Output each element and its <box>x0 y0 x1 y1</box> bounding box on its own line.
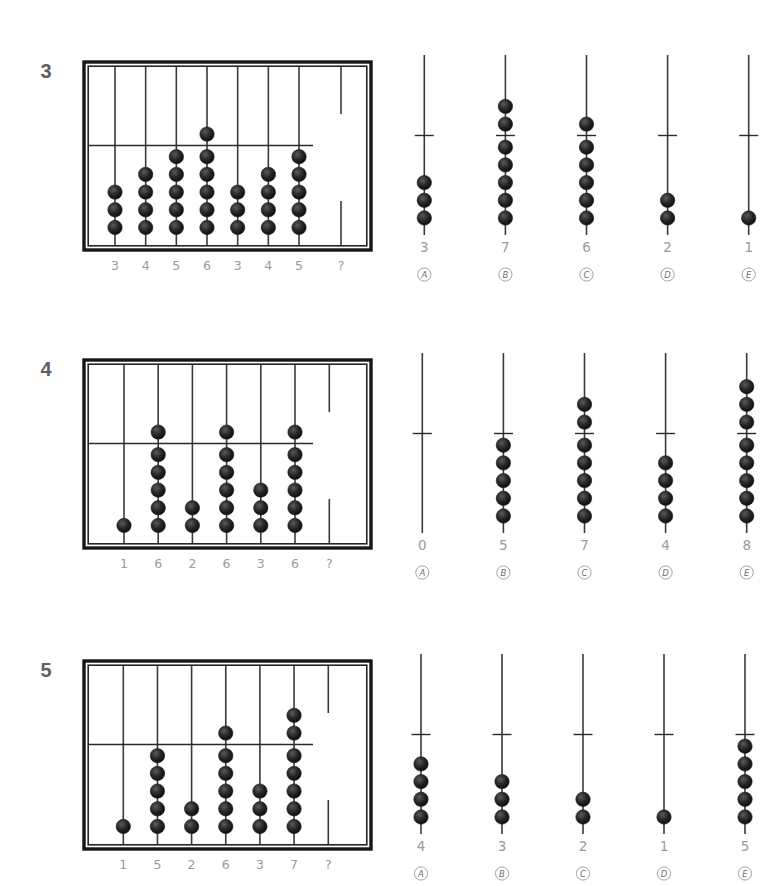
bead <box>292 150 306 164</box>
option-b[interactable]: 5B <box>494 353 513 579</box>
rod-value-label: 3 <box>234 258 242 273</box>
bead <box>738 810 752 824</box>
bead <box>200 185 214 199</box>
bead <box>261 203 275 217</box>
rod-value-label: 5 <box>172 258 180 273</box>
bead <box>169 185 183 199</box>
bead <box>498 140 512 154</box>
bead <box>660 193 674 207</box>
rod-value-label: 6 <box>291 556 299 571</box>
option-a[interactable]: 4A <box>412 654 431 880</box>
bead <box>151 425 165 439</box>
bead <box>219 749 233 763</box>
bead <box>498 158 512 172</box>
abacus-rod <box>151 365 165 543</box>
option-e[interactable]: 8E <box>737 353 756 579</box>
bead <box>414 810 428 824</box>
option-value: 1 <box>744 239 753 255</box>
option-b[interactable]: 3B <box>493 654 512 880</box>
option-letter: A <box>418 568 425 578</box>
bead <box>738 757 752 771</box>
bead <box>414 792 428 806</box>
option-d[interactable]: 1D <box>655 654 674 880</box>
option-letter: C <box>582 568 588 578</box>
bead <box>498 175 512 189</box>
bead <box>417 193 431 207</box>
option-e[interactable]: 1E <box>739 55 758 281</box>
option-c[interactable]: 2C <box>574 654 593 880</box>
abacus-rod <box>287 666 301 844</box>
bead <box>577 491 591 505</box>
option-c[interactable]: 7C <box>575 353 594 579</box>
bead <box>579 193 593 207</box>
option-e[interactable]: 5E <box>736 654 755 880</box>
bead <box>138 185 152 199</box>
bead <box>184 819 198 833</box>
option-b[interactable]: 7B <box>496 55 515 281</box>
option-value: 2 <box>663 239 672 255</box>
option-d[interactable]: 4D <box>656 353 675 579</box>
bead <box>261 167 275 181</box>
option-value: 0 <box>418 537 427 553</box>
bead <box>288 448 302 462</box>
option-c[interactable]: 6C <box>577 55 596 281</box>
rod-value-label: 1 <box>119 857 127 872</box>
bead <box>740 415 754 429</box>
bead <box>660 211 674 225</box>
option-d[interactable]: 2D <box>658 55 677 281</box>
puzzle-4: 4162636?0A5B7C4D8E <box>40 353 756 579</box>
abacus-worksheet: 33456345?3A7B6C2D1E4162636?0A5B7C4D8E515… <box>0 0 771 886</box>
rod-value-label: 6 <box>203 258 211 273</box>
answer-options: 0A5B7C4D8E <box>413 353 756 579</box>
option-letter: B <box>500 568 506 578</box>
bead <box>254 518 268 532</box>
answer-options: 4A3B2C1D5E <box>412 654 755 880</box>
bead <box>150 819 164 833</box>
abacus-frame-inner <box>88 66 367 246</box>
bead <box>150 766 164 780</box>
abacus-rod <box>138 67 152 245</box>
bead <box>200 220 214 234</box>
abacus <box>84 360 371 548</box>
bead <box>151 501 165 515</box>
rod-value-label: 6 <box>222 857 230 872</box>
abacus-rod <box>169 67 183 245</box>
bead <box>498 99 512 113</box>
option-value: 8 <box>742 537 751 553</box>
option-a[interactable]: 0A <box>413 353 432 579</box>
rod-value-label: 3 <box>256 857 264 872</box>
bead <box>414 774 428 788</box>
bead <box>287 749 301 763</box>
bead <box>495 810 509 824</box>
option-letter: E <box>744 568 750 578</box>
bead <box>496 491 510 505</box>
bead <box>288 425 302 439</box>
bead <box>150 802 164 816</box>
bead <box>577 456 591 470</box>
option-letter: D <box>664 270 671 280</box>
bead <box>230 185 244 199</box>
bead <box>577 473 591 487</box>
bead <box>740 397 754 411</box>
bead <box>117 518 131 532</box>
option-value: 5 <box>741 838 750 854</box>
rod-value-label: 3 <box>111 258 119 273</box>
rod-value-label: 1 <box>120 556 128 571</box>
rod-value-label: 7 <box>290 857 298 872</box>
bead <box>577 415 591 429</box>
bead <box>108 203 122 217</box>
option-value: 1 <box>660 838 669 854</box>
abacus-rod <box>185 365 199 543</box>
bead <box>219 448 233 462</box>
option-a[interactable]: 3A <box>415 55 434 281</box>
bead <box>219 726 233 740</box>
bead <box>740 456 754 470</box>
bead <box>253 802 267 816</box>
bead <box>658 509 672 523</box>
rod-value-label: 6 <box>154 556 162 571</box>
option-letter: C <box>580 869 586 879</box>
abacus-rod <box>116 666 130 844</box>
bead <box>151 465 165 479</box>
bead <box>740 473 754 487</box>
bead <box>740 438 754 452</box>
